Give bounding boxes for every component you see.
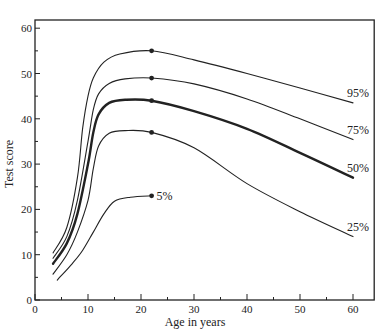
x-tick-label: 30	[189, 303, 201, 315]
curve-label: 75%	[347, 123, 369, 137]
marker-dot	[149, 130, 154, 135]
x-tick-label: 40	[242, 303, 254, 315]
marker-dot	[149, 193, 154, 198]
marker-dot	[149, 76, 154, 81]
curve-label: 95%	[347, 86, 369, 100]
y-tick-label: 50	[21, 68, 33, 80]
x-tick-label: 0	[32, 303, 38, 315]
curve-5pct: 5%	[57, 189, 172, 280]
x-tick-label: 20	[136, 303, 148, 315]
x-tick-label: 10	[83, 303, 95, 315]
axes: 01020304050600102030405060	[21, 22, 359, 315]
marker-dot	[149, 48, 154, 53]
percentile-curves: 95%75%50%25%5%	[53, 48, 369, 280]
curve-50pct: 50%	[53, 98, 369, 263]
x-tick-label: 60	[348, 303, 360, 315]
curve-label: 50%	[347, 161, 369, 175]
y-tick-label: 40	[21, 113, 33, 125]
y-tick-label: 10	[21, 249, 33, 261]
y-axis-label: Test score	[2, 140, 16, 188]
percentile-chart: 01020304050600102030405060 95%75%50%25%5…	[0, 0, 379, 334]
y-tick-label: 60	[21, 22, 33, 34]
x-axis-label: Age in years	[165, 315, 226, 329]
y-tick-label: 30	[21, 158, 33, 170]
curve-25pct: 25%	[53, 130, 369, 274]
x-tick-label: 50	[295, 303, 307, 315]
curve-75pct: 75%	[53, 76, 369, 259]
curve-label: 5%	[157, 189, 173, 203]
marker-dot	[149, 98, 154, 103]
curve-label: 25%	[347, 220, 369, 234]
y-tick-label: 20	[21, 203, 33, 215]
